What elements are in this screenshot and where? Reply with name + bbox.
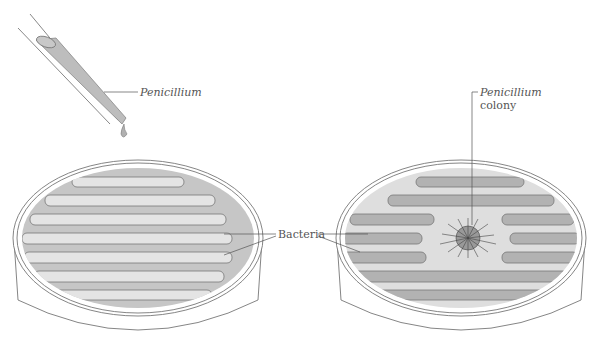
- dropper-icon: [18, 14, 138, 137]
- petri-dish-left: [13, 160, 263, 330]
- diagram-canvas: [0, 0, 594, 357]
- label-penicillium-colony: Penicillium: [480, 86, 542, 99]
- label-penicillium-dropper: Penicillium: [140, 86, 202, 99]
- petri-dish-right: [336, 92, 586, 330]
- label-bacteria: Bacteria: [278, 228, 325, 241]
- label-colony: colony: [480, 99, 516, 112]
